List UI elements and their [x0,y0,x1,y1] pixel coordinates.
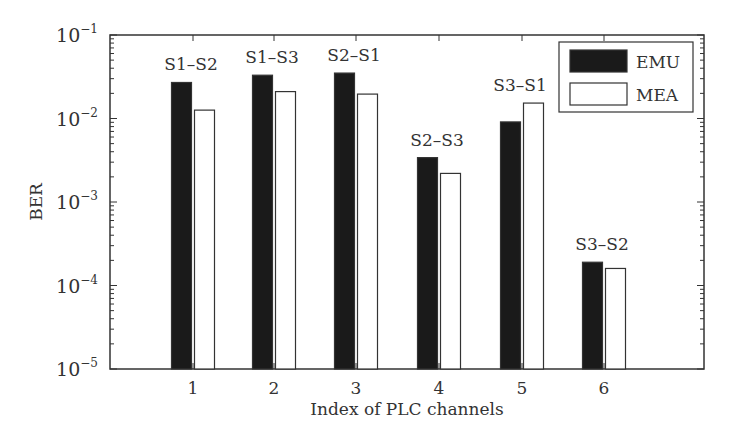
legend: EMUMEA [559,42,693,112]
legend-label-emu: EMU [636,52,680,72]
legend-swatch-emu [570,50,627,72]
bar-mea [441,173,461,369]
y-tick-label: 10−4 [56,273,98,297]
bar-emu [501,122,521,369]
ber-bar-chart: 10−510−410−310−210−11S1–S22S1–S33S2–S14S… [0,0,733,445]
bar-emu [418,158,438,369]
y-tick-label: 10−2 [56,106,98,130]
y-tick-label: 10−5 [56,356,98,380]
bar-mea [606,268,626,369]
legend-swatch-mea [570,83,627,105]
x-tick-label: 2 [269,378,280,398]
channel-pair-label: S3–S2 [575,234,628,254]
y-tick-label: 10−1 [56,22,98,46]
x-tick-label: 5 [517,378,528,398]
legend-label-mea: MEA [636,85,679,105]
x-tick-label: 3 [351,378,362,398]
x-tick-label: 4 [434,378,445,398]
channel-pair-label: S1–S3 [245,47,298,67]
bar-mea [524,103,544,369]
channel-pair-label: S2–S1 [327,45,380,65]
x-axis-label: Index of PLC channels [310,399,503,419]
x-tick-label: 1 [188,378,199,398]
bar-emu [335,73,355,369]
bar-emu [253,75,273,369]
channel-pair-label: S1–S2 [164,54,217,74]
y-axis-label: BER [26,182,46,221]
y-tick-label: 10−3 [56,189,98,213]
channel-pair-label: S2–S3 [410,130,463,150]
bar-mea [358,94,378,369]
x-tick-label: 6 [599,378,610,398]
channel-pair-label: S3–S1 [493,75,546,95]
bar-mea [276,92,296,369]
bar-emu [583,262,603,369]
bar-mea [195,110,215,369]
bar-emu [172,82,192,369]
